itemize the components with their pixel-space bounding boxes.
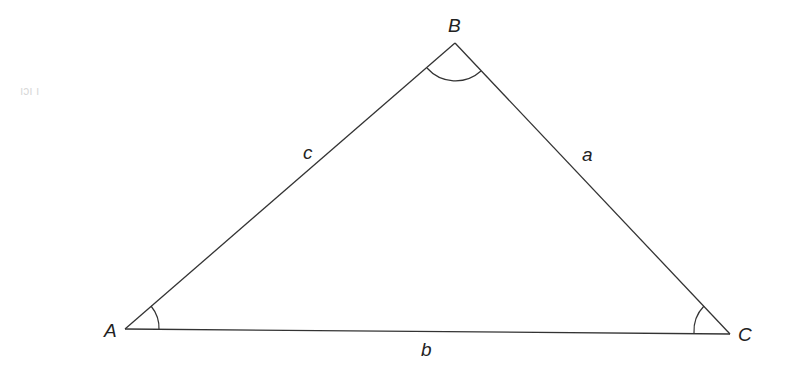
- side-b: [125, 329, 730, 334]
- angle-mark-b: [427, 68, 481, 81]
- triangle-diagram: ıɔı ı A B C c a b: [0, 0, 788, 372]
- side-c: [125, 43, 455, 329]
- side-label-c: c: [303, 142, 313, 163]
- vertex-label-c: C: [738, 324, 752, 345]
- vertex-label-a: A: [103, 320, 117, 341]
- vertex-label-b: B: [448, 15, 461, 36]
- angle-mark-a: [151, 306, 159, 330]
- side-label-b: b: [421, 339, 432, 360]
- faint-margin-text: ıɔı ı: [20, 84, 39, 98]
- angle-mark-c: [694, 306, 704, 333]
- side-a: [455, 43, 730, 334]
- side-label-a: a: [582, 144, 593, 165]
